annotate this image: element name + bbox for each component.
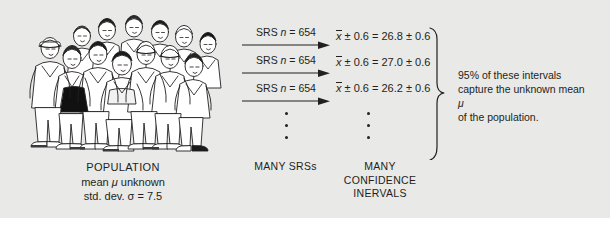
interval-vertical-dots xyxy=(336,112,400,139)
confidence-interval-figure: POPULATION mean μ unknown std. dev. σ = … xyxy=(0,0,610,227)
population-mean-line: mean μ unknown xyxy=(12,175,234,190)
srs-arrow-column: SRS n = 654 SRS n = 654 SRS n = 654 xyxy=(240,26,332,110)
population-title: POPULATION xyxy=(12,160,234,175)
vertical-dot xyxy=(285,112,288,115)
population-illustration xyxy=(12,6,234,161)
ci-estimate: 27.0 xyxy=(381,56,402,68)
vertical-dot xyxy=(367,136,370,139)
many-confidence-intervals-caption: MANY CONFIDENCE INERVALS xyxy=(330,160,430,201)
vertical-dot xyxy=(367,124,370,127)
ci-caption-line2: INERVALS xyxy=(353,187,406,199)
note-line-2: capture the unknown mean xyxy=(458,82,598,96)
vertical-dot xyxy=(367,112,370,115)
ci-margin-text: ± 0.6 = xyxy=(342,30,382,42)
srs-prefix: SRS xyxy=(256,26,281,38)
many-srs-caption: MANY SRSs xyxy=(233,160,338,172)
srs-arrow-block: SRS n = 654 xyxy=(240,26,332,51)
confidence-interval-row: x ± 0.6 = 27.0 ± 0.6 xyxy=(336,56,431,82)
srs-n-value: = 654 xyxy=(286,82,316,94)
population-mean-suffix: unknown xyxy=(118,176,165,188)
srs-n-value: = 654 xyxy=(286,54,316,66)
ci-estimate: 26.8 xyxy=(381,30,402,42)
note-line-1: 95% of these intervals xyxy=(458,68,598,82)
confidence-interval-row: x ± 0.6 = 26.2 ± 0.6 xyxy=(336,82,431,108)
population-sd-prefix: std. dev. xyxy=(84,190,128,202)
ci-estimate: 26.2 xyxy=(381,82,402,94)
srs-arrow-block: SRS n = 654 xyxy=(240,54,332,79)
vertical-dot xyxy=(285,124,288,127)
confidence-interval-column: x ± 0.6 = 26.8 ± 0.6 x ± 0.6 = 27.0 ± 0.… xyxy=(336,30,431,108)
srs-arrow-block: SRS n = 654 xyxy=(240,82,332,107)
note-line-3-rest: of the population. xyxy=(458,110,598,124)
mu-symbol: μ xyxy=(458,96,598,110)
population-caption: POPULATION mean μ unknown std. dev. σ = … xyxy=(12,160,234,204)
srs-arrow-icon xyxy=(242,97,330,106)
srs-arrow-label: SRS n = 654 xyxy=(240,82,332,94)
curly-brace-icon xyxy=(428,26,446,160)
srs-arrow-label: SRS n = 654 xyxy=(240,54,332,66)
ci-plus-minus: ± 0.6 xyxy=(403,56,430,68)
srs-prefix: SRS xyxy=(256,54,281,66)
ci-plus-minus: ± 0.6 xyxy=(403,30,430,42)
srs-n-value: = 654 xyxy=(286,26,316,38)
note-line-3: μ of the population. xyxy=(458,96,598,124)
population-sd-suffix: = 7.5 xyxy=(134,190,162,202)
ci-caption-line1: MANY CONFIDENCE xyxy=(344,160,416,186)
srs-vertical-dots xyxy=(240,112,332,139)
ci-margin-text: ± 0.6 = xyxy=(342,82,382,94)
srs-arrow-icon xyxy=(242,69,330,78)
confidence-interval-row: x ± 0.6 = 26.8 ± 0.6 xyxy=(336,30,431,56)
vertical-dot xyxy=(285,136,288,139)
explanatory-note: 95% of these intervals capture the unkno… xyxy=(458,68,598,124)
ci-margin-text: ± 0.6 = xyxy=(342,56,382,68)
population-sd-line: std. dev. σ = 7.5 xyxy=(12,189,234,204)
srs-prefix: SRS xyxy=(256,82,281,94)
srs-arrow-label: SRS n = 654 xyxy=(240,26,332,38)
srs-arrow-icon xyxy=(242,41,330,50)
ci-plus-minus: ± 0.6 xyxy=(403,82,430,94)
population-mean-prefix: mean xyxy=(81,176,112,188)
